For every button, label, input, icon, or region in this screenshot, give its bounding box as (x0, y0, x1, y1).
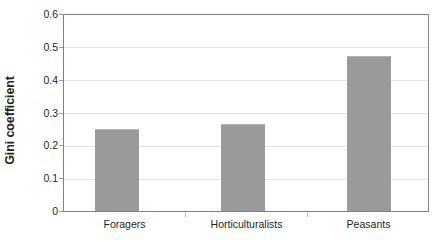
x-tick-label-peasants: Peasants (308, 218, 429, 230)
x-tick-mark (185, 212, 186, 217)
x-tick-label-horticulturalists: Horticulturalists (186, 218, 307, 230)
y-tick-label: 0.3 (0, 107, 58, 119)
x-tick-mark (307, 212, 308, 217)
plot-area (63, 14, 429, 212)
x-tick-label-foragers: Foragers (64, 218, 185, 230)
y-tick-label: 0 (0, 205, 58, 217)
y-tick-label: 0.2 (0, 139, 58, 151)
y-axis-ticks: 0.6 0.5 0.4 0.3 0.2 0.1 0 (0, 0, 58, 241)
y-tick-label: 0.4 (0, 74, 58, 86)
bar-horticulturalists (221, 124, 265, 211)
y-tick-label: 0.1 (0, 172, 58, 184)
x-axis-line (63, 211, 429, 212)
y-tick-label: 0.5 (0, 41, 58, 53)
bar-foragers (95, 129, 139, 211)
gridline (64, 47, 428, 48)
y-tick-label: 0.6 (0, 8, 58, 20)
bar-chart: Gini coefficient 0.6 0.5 0.4 0.3 0.2 0.1… (0, 0, 438, 241)
bar-peasants (347, 56, 391, 211)
